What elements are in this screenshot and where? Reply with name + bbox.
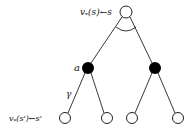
leaf-state-node-1: [60, 113, 71, 124]
action-node-right: [149, 62, 161, 74]
edge-b-leaf3: [135, 73, 152, 113]
backup-diagram: v*(s)←s a γ v*(s')←s': [0, 0, 196, 140]
max-arc: [116, 27, 136, 31]
discount-label: γ: [66, 89, 72, 99]
edge-root-left: [91, 17, 122, 63]
edge-a-leaf2: [91, 73, 104, 113]
action-label: a: [74, 62, 80, 73]
leaf-state-node-2: [102, 113, 113, 124]
action-node-left: [82, 62, 94, 74]
leaf-state-node-3: [127, 113, 138, 124]
leaf-label: v*(s')←s': [9, 114, 42, 124]
root-state-node: [120, 6, 132, 18]
edge-root-right: [130, 17, 152, 63]
leaf-state-node-4: [173, 113, 184, 124]
root-label: v*(s)←s: [80, 7, 112, 18]
edge-b-leaf4: [158, 73, 175, 113]
